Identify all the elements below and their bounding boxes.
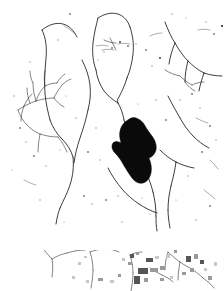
speck-47: [155, 99, 156, 100]
speck-10: [135, 43, 136, 44]
speck-24: [91, 203, 92, 204]
artifact-block-24: [84, 256, 87, 258]
artifact-block-21: [86, 280, 89, 283]
artifact-block-6: [150, 268, 158, 272]
speck-9: [127, 45, 129, 47]
speck-0: [221, 25, 223, 27]
artifact-block-13: [194, 254, 198, 259]
speck-21: [87, 151, 89, 153]
speck-28: [165, 119, 167, 121]
artifact-block-17: [182, 272, 186, 275]
speck-43: [13, 95, 14, 96]
speck-19: [59, 149, 60, 150]
artifact-block-19: [110, 280, 114, 283]
artifact-block-18: [118, 274, 121, 277]
artifact-block-14: [200, 260, 204, 264]
speck-34: [201, 151, 203, 153]
speck-18: [45, 165, 46, 166]
artifact-block-7: [160, 266, 165, 270]
artifact-block-15: [190, 268, 194, 272]
artifact-block-4: [155, 256, 159, 259]
speck-15: [19, 127, 21, 129]
artifact-block-0: [130, 254, 134, 258]
speck-4: [151, 65, 152, 66]
speck-29: [179, 99, 180, 100]
artifact-block-16: [204, 268, 207, 271]
speck-12: [69, 13, 71, 15]
separator-band: [0, 232, 224, 250]
speck-23: [83, 195, 85, 197]
speck-2: [205, 21, 206, 22]
speck-20: [75, 117, 76, 118]
artifact-block-8: [134, 276, 140, 284]
artifact-block-29: [214, 262, 217, 266]
speck-14: [29, 61, 30, 62]
speck-16: [25, 141, 26, 142]
speck-39: [149, 213, 150, 214]
speck-8: [103, 51, 104, 52]
artifact-block-2: [128, 262, 132, 265]
speck-30: [191, 93, 193, 95]
speck-13: [57, 39, 58, 40]
speck-48: [137, 103, 138, 104]
artifact-block-23: [78, 262, 81, 265]
speck-32: [209, 125, 211, 127]
artifact-block-27: [170, 276, 173, 279]
speck-38: [195, 219, 196, 220]
speck-6: [119, 41, 121, 43]
speck-31: [199, 107, 200, 108]
speck-35: [187, 175, 188, 176]
speck-45: [171, 13, 172, 14]
artifact-block-3: [146, 258, 153, 262]
artifact-block-12: [186, 256, 191, 262]
artifact-block-20: [98, 278, 103, 281]
speck-49: [95, 127, 96, 128]
speck-1: [213, 33, 215, 35]
speck-36: [175, 199, 176, 200]
speck-3: [159, 57, 161, 59]
artifact-block-25: [122, 258, 125, 261]
drainage-network-figure: [0, 0, 224, 291]
speck-22: [99, 159, 100, 160]
speck-25: [105, 199, 107, 201]
speck-41: [63, 221, 64, 222]
figure-root: Binarized scan of a drainage network map…: [0, 0, 224, 291]
artifact-block-26: [160, 278, 164, 281]
speck-17: [33, 155, 35, 157]
speck-40: [121, 221, 122, 222]
artifact-block-11: [174, 250, 177, 253]
speck-26: [117, 195, 118, 196]
speck-46: [185, 17, 186, 18]
speck-11: [97, 59, 98, 60]
speck-42: [39, 199, 40, 200]
artifact-block-5: [138, 268, 148, 274]
artifact-block-1: [136, 252, 139, 255]
artifact-block-22: [72, 276, 75, 279]
artifact-block-28: [208, 276, 212, 280]
speck-5: [145, 49, 147, 51]
speck-27: [141, 197, 142, 198]
artifact-block-9: [144, 278, 148, 282]
speck-37: [209, 205, 211, 207]
artifact-block-10: [166, 254, 170, 258]
speck-7: [111, 47, 113, 49]
speck-50: [65, 95, 66, 96]
speck-33: [215, 139, 216, 140]
speck-44: [11, 169, 12, 170]
